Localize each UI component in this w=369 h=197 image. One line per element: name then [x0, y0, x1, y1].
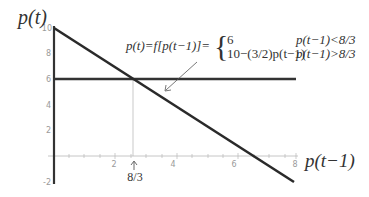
x-tick-2: 2: [111, 160, 116, 169]
x-tick-6: 6: [231, 160, 236, 169]
case2-condition: p(t−1)>8/3: [295, 46, 356, 61]
case1-value: 6: [227, 32, 234, 47]
chart-canvas: 10 8 6 4 2 -2 2 4 6 8 8/3 p(t) p(t−1) p(…: [0, 0, 369, 197]
y-tick-2: 2: [46, 126, 51, 135]
case1-condition: p(t−1)<8/3: [295, 32, 356, 47]
y-tick-4: 4: [46, 101, 51, 110]
marker-arrow-icon: [131, 161, 137, 170]
arrow-icon: [165, 62, 197, 91]
y-tick-8: 8: [46, 49, 51, 58]
y-axis-label-p: p: [16, 6, 28, 29]
y-tick-minus-2: -2: [43, 178, 51, 187]
case2-value: 10−(3/2)p(t−1): [227, 46, 305, 61]
y-axis-label-t: (t): [28, 6, 47, 29]
x-axis-label: p(t−1): [303, 150, 355, 172]
marker-label-8-3: 8/3: [127, 170, 142, 184]
y-axis-label: p(t): [16, 6, 47, 29]
equation-lhs: p(t)=f[p(t−1)]=: [125, 38, 210, 53]
x-tick-8: 8: [292, 160, 297, 169]
x-tick-4: 4: [170, 160, 175, 169]
y-tick-6: 6: [46, 75, 51, 84]
